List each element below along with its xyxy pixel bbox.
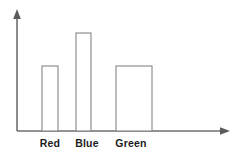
bar-chart-figure: Red Blue Green xyxy=(0,0,235,155)
x-tick-label-red: Red xyxy=(40,137,60,149)
y-axis xyxy=(13,9,21,131)
x-axis-arrowhead xyxy=(220,127,230,135)
bar-series xyxy=(42,33,152,131)
bar-red xyxy=(42,66,58,131)
bar-green xyxy=(116,66,152,131)
x-axis-tick-labels: Red Blue Green xyxy=(40,137,147,149)
y-axis-arrowhead xyxy=(13,9,21,19)
bar-blue xyxy=(76,33,91,131)
x-tick-label-blue: Blue xyxy=(75,137,99,149)
chart-canvas: Red Blue Green xyxy=(0,0,235,155)
x-tick-label-green: Green xyxy=(115,137,146,149)
